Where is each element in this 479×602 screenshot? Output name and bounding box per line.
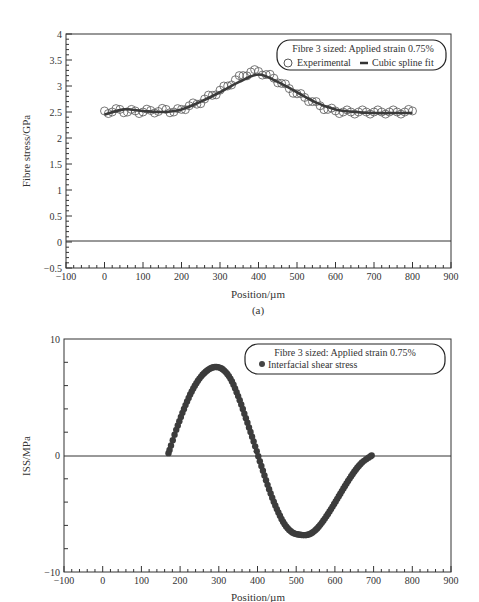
chart-b-y-label: ISS/MPa — [20, 436, 32, 476]
chart-a-panel-label: (a) — [252, 304, 265, 317]
x-tick-label: 100 — [136, 271, 151, 282]
y-tick-label: −0.5 — [44, 263, 62, 274]
chart-b: −1000100200300400500600700800900 −10010 … — [20, 334, 459, 602]
y-tick-label: 4 — [57, 29, 62, 40]
y-tick-label: 0 — [55, 450, 60, 461]
x-tick-label: 900 — [444, 575, 459, 586]
x-tick-label: 200 — [174, 271, 189, 282]
y-tick-label: 3 — [57, 81, 62, 92]
x-tick-label: 500 — [290, 271, 305, 282]
x-tick-label: 400 — [251, 271, 266, 282]
chart-a-y-ticks: −0.500.511.522.533.54 — [44, 29, 72, 274]
iss-marker-icon — [259, 361, 265, 367]
x-tick-label: 700 — [367, 271, 382, 282]
chart-b-legend-title: Fibre 3 sized: Applied strain 0.75% — [274, 347, 416, 358]
y-tick-label: 2 — [57, 133, 62, 144]
chart-b-x-ticks: −1000100200300400500600700800900 — [54, 566, 459, 586]
chart-b-legend-label-iss: Interfacial shear stress — [268, 359, 358, 370]
figure: −1000100200300400500600700800900 −0.500.… — [0, 0, 479, 602]
chart-a-x-ticks: −1000100200300400500600700800900 — [56, 262, 459, 282]
chart-a-legend: Fibre 3 sized: Applied strain 0.75% Expe… — [277, 40, 446, 70]
x-tick-label: 700 — [366, 575, 381, 586]
chart-a-legend-label-experimental: Experimental — [297, 57, 351, 68]
x-tick-label: 300 — [211, 575, 226, 586]
iss-point — [368, 452, 374, 458]
x-tick-label: 900 — [444, 271, 459, 282]
x-tick-label: 200 — [173, 575, 188, 586]
chart-a-legend-title: Fibre 3 sized: Applied strain 0.75% — [292, 43, 434, 54]
x-tick-label: 600 — [327, 575, 342, 586]
chart-a: −1000100200300400500600700800900 −0.500.… — [20, 29, 459, 318]
chart-b-x-label: Position/µm — [231, 591, 285, 602]
chart-a-series — [101, 66, 417, 118]
chart-a-x-label: Position/µm — [231, 288, 285, 300]
chart-a-legend-label-spline: Cubic spline fit — [372, 57, 434, 68]
x-tick-label: 400 — [250, 575, 265, 586]
y-tick-label: 1.5 — [50, 159, 63, 170]
x-tick-label: 500 — [289, 575, 304, 586]
y-tick-label: 10 — [50, 334, 60, 345]
x-tick-label: 800 — [405, 575, 420, 586]
y-tick-label: 0.5 — [50, 211, 63, 222]
x-tick-label: 300 — [213, 271, 228, 282]
x-tick-label: 600 — [328, 271, 343, 282]
chart-b-series — [165, 364, 375, 539]
y-tick-label: 3.5 — [50, 55, 63, 66]
x-tick-label: 0 — [102, 271, 107, 282]
x-tick-label: 100 — [134, 575, 149, 586]
x-tick-label: 0 — [100, 575, 105, 586]
y-tick-label: 2.5 — [50, 107, 63, 118]
y-tick-label: −10 — [44, 567, 60, 578]
chart-a-y-label: Fibre stress/GPa — [20, 115, 32, 188]
chart-b-legend: Fibre 3 sized: Applied strain 0.75% Inte… — [245, 344, 445, 374]
y-tick-label: 1 — [57, 185, 62, 196]
x-tick-label: 800 — [405, 271, 420, 282]
y-tick-label: 0 — [57, 237, 62, 248]
